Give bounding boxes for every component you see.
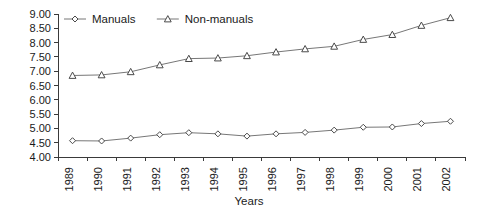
x-tick-label: 1999 — [353, 167, 365, 191]
x-tick-label: 1994 — [208, 167, 220, 191]
data-point — [99, 138, 105, 144]
x-tick-label: 1992 — [150, 167, 162, 191]
x-tick-label: 2001 — [411, 167, 423, 191]
data-point — [244, 133, 250, 139]
y-tick-label: 6.00 — [30, 94, 51, 106]
y-tick-label: 8.00 — [30, 37, 51, 49]
y-tick-label: 6.50 — [30, 80, 51, 92]
data-point — [157, 132, 163, 138]
y-tick-label: 5.50 — [30, 108, 51, 120]
legend-item-non-manuals[interactable]: Non-manuals — [157, 13, 254, 25]
legend-item-manuals[interactable]: Manuals — [64, 13, 136, 25]
chart-container: 9.008.508.007.507.006.506.005.505.004.50… — [0, 0, 497, 217]
x-tick-label: 1997 — [295, 167, 307, 191]
data-point — [128, 135, 134, 141]
data-point — [447, 118, 453, 124]
x-tick-label: 1996 — [266, 167, 278, 191]
data-point — [273, 131, 279, 137]
y-axis-ticks — [54, 14, 58, 157]
data-point — [302, 129, 308, 135]
data-point — [186, 130, 192, 136]
data-point — [447, 14, 454, 20]
legend-marker-diamond-icon — [72, 16, 78, 22]
y-tick-label: 4.50 — [30, 137, 51, 149]
y-tick-label: 7.00 — [30, 65, 51, 77]
y-tick-label: 7.50 — [30, 51, 51, 63]
x-tick-label: 1995 — [237, 167, 249, 191]
legend-label: Manuals — [92, 13, 136, 25]
y-tick-label: 9.00 — [30, 8, 51, 20]
series-manuals — [70, 118, 454, 144]
x-tick-label: 2000 — [382, 167, 394, 191]
x-axis-ticks — [58, 157, 465, 161]
x-axis-title: Years — [235, 195, 264, 207]
legend-label: Non-manuals — [185, 13, 254, 25]
data-point — [215, 131, 221, 137]
data-point — [70, 138, 76, 144]
series-line — [73, 18, 451, 76]
x-tick-label: 1989 — [63, 167, 75, 191]
y-tick-label: 4.00 — [30, 151, 51, 163]
y-tick-label: 8.50 — [30, 22, 51, 34]
x-tick-label: 1993 — [179, 167, 191, 191]
series-layer — [69, 14, 454, 144]
line-chart: 9.008.508.007.507.006.506.005.505.004.50… — [0, 0, 497, 217]
x-axis-tick-labels: 1989199019911992199319941995199619971998… — [63, 167, 453, 191]
y-axis-tick-labels: 9.008.508.007.507.006.506.005.505.004.50… — [30, 8, 51, 163]
chart-legend: ManualsNon-manuals — [64, 13, 253, 25]
x-tick-label: 2002 — [440, 167, 452, 191]
data-point — [360, 124, 366, 130]
data-point — [331, 127, 337, 133]
x-tick-label: 1998 — [324, 167, 336, 191]
y-tick-label: 5.00 — [30, 122, 51, 134]
x-tick-label: 1990 — [92, 167, 104, 191]
data-point — [418, 121, 424, 127]
data-point — [389, 124, 395, 130]
x-tick-label: 1991 — [121, 167, 133, 191]
